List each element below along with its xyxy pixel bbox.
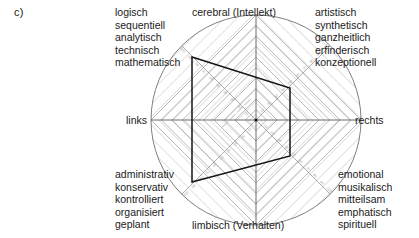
descriptor-line: artistisch: [315, 6, 376, 19]
descriptors-top-right: artistisch synthetisch ganzheitlich erfi…: [315, 6, 376, 69]
descriptor-line: emotional: [338, 168, 392, 181]
axis-label-bottom: limbisch (Verhalten): [192, 219, 284, 232]
descriptor-line: mitteilsam: [338, 193, 392, 206]
descriptor-line: mathematisch: [115, 56, 180, 69]
axis-label-top: cerebral (Intellekt): [192, 6, 276, 19]
descriptor-line: spirituell: [338, 218, 392, 231]
axis-label-right: rechts: [355, 114, 384, 127]
descriptor-line: erfinderisch: [315, 44, 376, 57]
descriptor-line: konservativ: [115, 181, 174, 194]
descriptor-line: ganzheitlich: [315, 31, 376, 44]
descriptor-line: emphatisch: [338, 206, 392, 219]
axis-label-left: links: [126, 114, 147, 127]
descriptor-line: sequentiell: [115, 19, 180, 32]
center-point: [254, 118, 257, 121]
descriptors-bottom-left: administrativ konservativ kontrolliert o…: [115, 168, 174, 231]
descriptors-top-left: logisch sequentiell analytisch technisch…: [115, 6, 180, 69]
descriptor-line: logisch: [115, 6, 180, 19]
descriptor-line: konzeptionell: [315, 56, 376, 69]
descriptor-line: musikalisch: [338, 181, 392, 194]
descriptor-line: synthetisch: [315, 19, 376, 32]
descriptor-line: technisch: [115, 44, 180, 57]
figure-canvas: c): [0, 0, 419, 238]
descriptor-line: analytisch: [115, 31, 180, 44]
descriptors-bottom-right: emotional musikalisch mitteilsam emphati…: [338, 168, 392, 231]
descriptor-line: administrativ: [115, 168, 174, 181]
descriptor-line: geplant: [115, 218, 174, 231]
descriptor-line: kontrolliert: [115, 193, 174, 206]
descriptor-line: organisiert: [115, 206, 174, 219]
